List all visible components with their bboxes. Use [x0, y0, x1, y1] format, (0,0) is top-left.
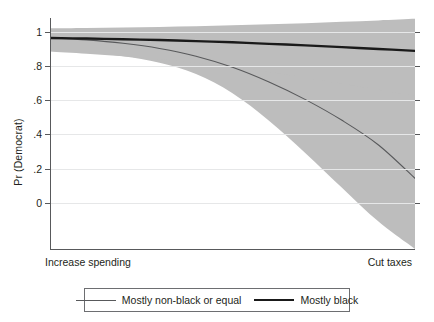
y-axis-tick-label: 0	[36, 198, 42, 209]
legend-swatch-thin-line-icon	[76, 300, 116, 301]
x-axis-left-label: Increase spending	[45, 256, 131, 268]
legend-swatch-thick-line-icon	[254, 299, 294, 301]
y-axis-tick-right	[415, 100, 420, 101]
y-axis-tick-label: 1	[36, 26, 42, 37]
legend-item-non-black: Mostly non-black or equal	[76, 294, 242, 306]
y-axis-tick	[45, 203, 50, 204]
y-axis-tick-label: .8	[33, 61, 42, 72]
y-axis-tick	[45, 66, 50, 67]
y-axis-tick-label: .4	[33, 129, 42, 140]
x-axis-right-label: Cut taxes	[368, 256, 412, 268]
y-axis-tick-label: .6	[33, 95, 42, 106]
y-axis-tick	[45, 134, 50, 135]
gridline	[51, 203, 415, 204]
plot-area: 1.8.6.4.20	[50, 18, 415, 249]
y-axis-title: Pr (Democrat)	[12, 0, 24, 92]
legend-item-mostly-black: Mostly black	[254, 294, 358, 306]
gridline	[51, 66, 415, 67]
y-axis-tick-right	[415, 203, 420, 204]
chart-legend: Mostly non-black or equal Mostly black	[84, 288, 350, 312]
gridline	[51, 32, 415, 33]
legend-label: Mostly black	[300, 294, 358, 306]
y-axis-tick-right	[415, 134, 420, 135]
y-axis-tick	[45, 32, 50, 33]
y-axis-tick-label: .2	[33, 163, 42, 174]
gridline	[51, 100, 415, 101]
gridline	[51, 169, 415, 170]
y-axis-tick-right	[415, 169, 420, 170]
y-axis-tick	[45, 100, 50, 101]
y-axis-tick-right	[415, 66, 420, 67]
y-axis-tick	[45, 169, 50, 170]
y-axis-tick-right	[415, 32, 420, 33]
x-axis-line	[50, 249, 415, 250]
gridline	[51, 134, 415, 135]
legend-label: Mostly non-black or equal	[122, 294, 242, 306]
chart-figure: Pr (Democrat) 1.8.6.4.20 Increase spendi…	[0, 0, 434, 322]
